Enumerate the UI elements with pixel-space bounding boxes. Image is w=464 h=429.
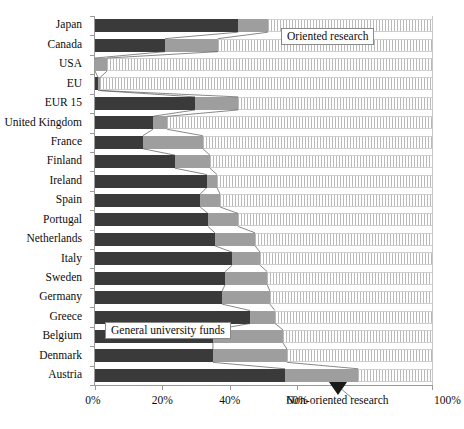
bar-row: [95, 155, 432, 168]
plot-right-border: [432, 16, 433, 385]
x-tick: [230, 385, 231, 390]
bar-row: [95, 194, 432, 207]
x-tick: [95, 385, 96, 390]
category-label-united-kingdom: United Kingdom: [4, 117, 82, 129]
bar-segment-general-university-funds: [95, 175, 207, 188]
bar-row: [95, 349, 432, 362]
bar-segment-oriented-research: [195, 97, 238, 110]
bar-row: [95, 97, 432, 110]
bar-segment-oriented-research: [238, 19, 268, 32]
bar-segment-non-oriented-research: [107, 58, 432, 71]
bar-segment-general-university-funds: [95, 136, 143, 149]
bar-segment-oriented-research: [213, 349, 287, 362]
bar-segment-non-oriented-research: [358, 369, 432, 382]
category-label-denmark: Denmark: [39, 350, 82, 362]
bar-row: [95, 291, 432, 304]
category-label-ireland: Ireland: [49, 175, 82, 187]
bar-segment-non-oriented-research: [217, 175, 432, 188]
category-label-austria: Austria: [48, 369, 82, 381]
bar-row: [95, 213, 432, 226]
category-label-japan: Japan: [56, 19, 82, 31]
bar-segment-non-oriented-research: [203, 136, 432, 149]
bar-segment-non-oriented-research: [283, 330, 432, 343]
bar-segment-non-oriented-research: [270, 291, 432, 304]
bar-segment-oriented-research: [143, 136, 203, 149]
bar-segment-oriented-research: [153, 116, 167, 129]
bar-segment-oriented-research: [285, 369, 358, 382]
category-label-germany: Germany: [39, 291, 82, 303]
x-tick-label: 40%: [219, 394, 240, 407]
bar-segment-non-oriented-research: [238, 213, 432, 226]
category-label-france: France: [51, 136, 82, 148]
bar-segment-general-university-funds: [95, 291, 222, 304]
bar-segment-non-oriented-research: [100, 77, 432, 90]
category-label-eur-15: EUR 15: [45, 97, 82, 109]
bar-segment-general-university-funds: [95, 194, 200, 207]
bar-segment-oriented-research: [225, 272, 267, 285]
bar-segment-general-university-funds: [95, 272, 225, 285]
bar-row: [95, 19, 432, 32]
bar-segment-general-university-funds: [95, 213, 208, 226]
bar-segment-general-university-funds: [95, 349, 213, 362]
x-tick-label: 20%: [152, 394, 173, 407]
bar-row: [95, 233, 432, 246]
bar-segment-non-oriented-research: [238, 97, 432, 110]
bar-segment-general-university-funds: [95, 155, 175, 168]
category-label-spain: Spain: [56, 194, 82, 206]
oriented-research-callout: Oriented research: [281, 28, 374, 45]
category-label-belgium: Belgium: [42, 330, 82, 342]
bar-segment-non-oriented-research: [210, 155, 432, 168]
category-label-netherlands: Netherlands: [26, 233, 82, 245]
bar-segment-oriented-research: [232, 252, 260, 265]
bar-row: [95, 175, 432, 188]
bar-segment-non-oriented-research: [287, 349, 432, 362]
bar-segment-non-oriented-research: [255, 233, 432, 246]
bar-segment-general-university-funds: [95, 97, 195, 110]
bar-segment-general-university-funds: [95, 233, 215, 246]
x-axis-line: [94, 385, 433, 386]
bar-segment-non-oriented-research: [260, 252, 432, 265]
bar-segment-oriented-research: [222, 291, 270, 304]
bar-segment-general-university-funds: [95, 19, 238, 32]
stacked-bar-chart: JapanCanadaUSAEUEUR 15United KingdomFran…: [0, 0, 464, 429]
bar-segment-oriented-research: [95, 58, 107, 71]
bar-segment-general-university-funds: [95, 252, 232, 265]
category-label-usa: USA: [59, 58, 82, 70]
bar-segment-oriented-research: [208, 213, 238, 226]
general-university-funds-callout: General university funds: [105, 322, 231, 339]
category-label-italy: Italy: [61, 253, 82, 265]
bar-row: [95, 272, 432, 285]
category-label-finland: Finland: [47, 155, 82, 167]
bar-segment-non-oriented-research: [275, 311, 432, 324]
x-tick-label: 100%: [434, 394, 461, 407]
bar-row: [95, 58, 432, 71]
bar-segment-general-university-funds: [95, 116, 153, 129]
bar-row: [95, 369, 432, 382]
bar-segment-oriented-research: [175, 155, 210, 168]
bar-row: [95, 77, 432, 90]
bar-row: [95, 39, 432, 52]
x-tick: [432, 385, 433, 390]
bar-row: [95, 252, 432, 265]
y-axis-category-labels: JapanCanadaUSAEUEUR 15United KingdomFran…: [0, 16, 90, 385]
bar-segment-general-university-funds: [95, 39, 165, 52]
category-label-greece: Greece: [49, 311, 82, 323]
category-label-sweden: Sweden: [46, 272, 82, 284]
bar-segment-non-oriented-research: [167, 116, 432, 129]
bar-segment-oriented-research: [207, 175, 217, 188]
x-tick-label: 0%: [85, 394, 100, 407]
bar-segment-oriented-research: [250, 311, 275, 324]
bar-segment-general-university-funds: [95, 369, 285, 382]
x-tick: [162, 385, 163, 390]
category-label-eu: EU: [67, 78, 82, 90]
bar-segment-oriented-research: [215, 233, 255, 246]
category-label-canada: Canada: [48, 39, 82, 51]
category-label-portugal: Portugal: [43, 214, 82, 226]
bar-segment-oriented-research: [165, 39, 218, 52]
bar-segment-oriented-research: [200, 194, 220, 207]
non-oriented-research-callout: Non-oriented research: [286, 394, 389, 407]
bar-segment-non-oriented-research: [267, 272, 432, 285]
bar-segment-non-oriented-research: [220, 194, 432, 207]
bar-row: [95, 116, 432, 129]
x-tick: [297, 385, 298, 390]
